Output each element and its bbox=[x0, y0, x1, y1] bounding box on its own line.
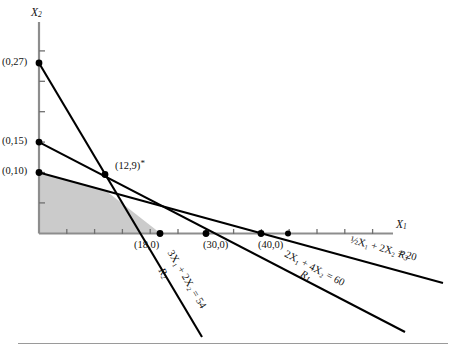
intercept-label-0-27: (0,27) bbox=[2, 56, 27, 67]
optimal-point-label: (12,9)* bbox=[115, 158, 145, 171]
intercept-label-0-10: (0,10) bbox=[2, 165, 27, 176]
linear-programming-graph bbox=[0, 0, 466, 355]
intercept-label-40-0: (40,0) bbox=[258, 239, 283, 250]
feasible-region-shading bbox=[39, 172, 160, 233]
marker-18-0 bbox=[157, 230, 164, 237]
x-axis-title: X1 bbox=[396, 218, 407, 231]
marker-40-0 bbox=[258, 230, 265, 237]
bottom-divider bbox=[18, 343, 448, 344]
marker-30-0 bbox=[203, 230, 210, 237]
marker-0-10 bbox=[36, 169, 43, 176]
intercept-label-0-15: (0,15) bbox=[2, 135, 27, 146]
marker-0-27 bbox=[36, 60, 43, 67]
marker-r3-r1-right bbox=[285, 231, 291, 237]
marker-12-9 bbox=[102, 171, 109, 178]
y-axis-title: X2 bbox=[31, 6, 42, 19]
marker-0-15 bbox=[36, 139, 43, 146]
intercept-label-30-0: (30,0) bbox=[203, 239, 228, 250]
intercept-label-18-0: (18,0) bbox=[134, 239, 159, 250]
